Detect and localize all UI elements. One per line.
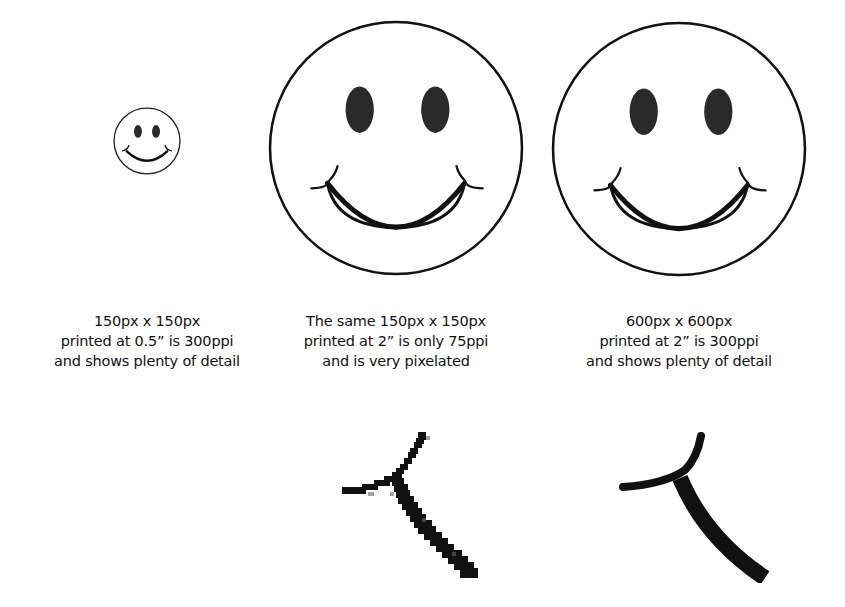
- pixelated-smiley-icon: [267, 19, 525, 277]
- caption-line: printed at 2” is 300ppi: [549, 331, 809, 351]
- caption-small: 150px x 150px printed at 0.5” is 300ppi …: [17, 311, 277, 371]
- caption-line: and is very pixelated: [266, 351, 526, 371]
- caption-line: 150px x 150px: [17, 311, 277, 331]
- highres-smiley-icon: [550, 20, 808, 278]
- caption-line: 600px x 600px: [549, 311, 809, 331]
- caption-line: and shows plenty of detail: [17, 351, 277, 371]
- pixelated-detail-icon: [338, 428, 488, 583]
- caption-line: The same 150px x 150px: [266, 311, 526, 331]
- caption-line: and shows plenty of detail: [549, 351, 809, 371]
- highres-detail-icon: [615, 428, 775, 583]
- caption-line: printed at 0.5” is 300ppi: [17, 331, 277, 351]
- caption-line: printed at 2” is only 75ppi: [266, 331, 526, 351]
- small-smiley-icon: [113, 107, 181, 175]
- caption-highres: 600px x 600px printed at 2” is 300ppi an…: [549, 311, 809, 371]
- caption-pixelated: The same 150px x 150px printed at 2” is …: [266, 311, 526, 371]
